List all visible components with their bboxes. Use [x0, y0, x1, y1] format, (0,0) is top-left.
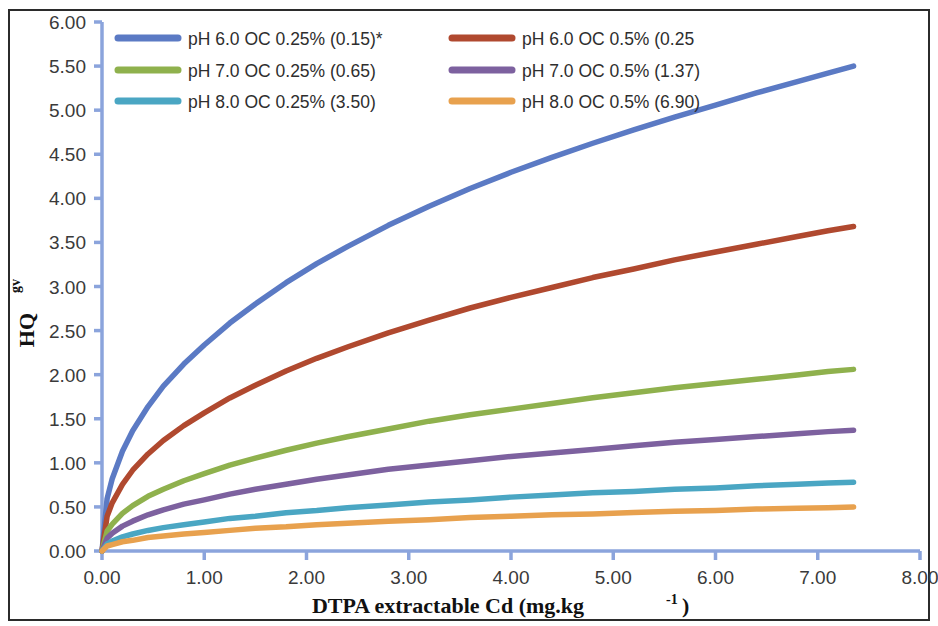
- y-axis-title-sub: gv: [8, 279, 23, 293]
- chart-page: 0.000.501.001.502.002.503.003.504.004.50…: [0, 0, 938, 626]
- y-tick-label: 3.00: [49, 277, 86, 298]
- y-tick-label: 1.50: [49, 409, 86, 430]
- x-axis-title-main: DTPA extractable Cd (mg.kg: [312, 593, 584, 618]
- y-tick-label: 2.00: [49, 365, 86, 386]
- data-curves: [102, 66, 854, 551]
- x-tick-label: 8.00: [902, 567, 938, 588]
- x-axis-tick-labels: 0.001.002.003.004.005.006.007.008.00: [84, 567, 938, 588]
- legend-label-0: pH 6.0 OC 0.25% (0.15)*: [188, 29, 383, 49]
- x-tick-label: 1.00: [186, 567, 223, 588]
- curve-series-5: [102, 507, 854, 551]
- y-axis-title: HQ gv: [8, 279, 39, 347]
- x-tick-label: 4.00: [493, 567, 530, 588]
- y-tick-label: 4.00: [49, 188, 86, 209]
- y-axis-tick-labels: 0.000.501.001.502.002.503.003.504.004.50…: [49, 12, 86, 562]
- x-tick-label: 0.00: [84, 567, 121, 588]
- y-tick-label: 0.50: [49, 497, 86, 518]
- x-tick-label: 7.00: [799, 567, 836, 588]
- y-tick-label: 5.00: [49, 100, 86, 121]
- y-tick-label: 3.50: [49, 232, 86, 253]
- legend-label-2: pH 7.0 OC 0.25% (0.65): [188, 61, 376, 81]
- y-tick-label: 2.50: [49, 321, 86, 342]
- x-axis-title: DTPA extractable Cd (mg.kg -1 ): [312, 592, 689, 618]
- y-tick-label: 0.00: [49, 541, 86, 562]
- chart-svg: 0.000.501.001.502.002.503.003.504.004.50…: [0, 0, 938, 626]
- curve-series-1: [102, 227, 854, 551]
- legend-label-1: pH 6.0 OC 0.5% (0.25: [522, 29, 694, 49]
- x-tick-label: 2.00: [288, 567, 325, 588]
- y-tick-label: 6.00: [49, 12, 86, 33]
- legend-label-3: pH 7.0 OC 0.5% (1.37): [522, 61, 700, 81]
- x-axis-title-superscript: -1: [666, 592, 678, 607]
- x-tick-label: 5.00: [595, 567, 632, 588]
- y-tick-label: 1.00: [49, 453, 86, 474]
- x-axis-title-tail: ): [682, 593, 689, 618]
- legend-label-4: pH 8.0 OC 0.25% (3.50): [188, 92, 376, 112]
- chart-legend: pH 6.0 OC 0.25% (0.15)*pH 6.0 OC 0.5% (0…: [118, 29, 700, 112]
- x-tick-label: 3.00: [390, 567, 427, 588]
- x-tick-label: 6.00: [697, 567, 734, 588]
- y-tick-label: 5.50: [49, 56, 86, 77]
- legend-label-5: pH 8.0 OC 0.5% (6.90): [522, 92, 700, 112]
- y-tick-label: 4.50: [49, 144, 86, 165]
- y-axis-title-main: HQ: [14, 313, 39, 347]
- plot-area: 0.000.501.001.502.002.503.003.504.004.50…: [0, 0, 938, 626]
